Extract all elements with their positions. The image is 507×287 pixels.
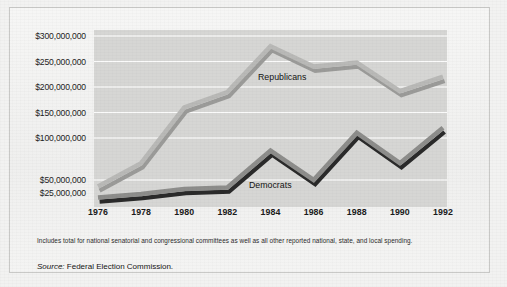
- x-axis-tick-label: 1986: [304, 207, 324, 217]
- x-axis-tick-label: 1980: [174, 207, 194, 217]
- y-axis-tick-label: $200,000,000: [35, 82, 86, 92]
- chart-footnote: Includes total for national senatorial a…: [37, 237, 449, 245]
- y-axis-tick-label: $25,000,000: [40, 188, 86, 198]
- x-axis-tick-label: 1984: [261, 207, 281, 217]
- x-axis-tick-label: 1982: [217, 207, 237, 217]
- x-axis-tick-label: 1990: [390, 207, 410, 217]
- x-axis-tick-label: 1976: [88, 207, 108, 217]
- y-axis-tick-label: $50,000,000: [40, 175, 86, 185]
- x-axis-tick-label: 1992: [433, 207, 453, 217]
- x-axis-tick-label: 1978: [131, 207, 151, 217]
- y-axis-tick-label: $300,000,000: [35, 31, 86, 41]
- series-annotation-republicans: Republicans: [258, 72, 306, 82]
- y-axis-tick-label: $100,000,000: [35, 133, 86, 143]
- x-axis-labels: 197619781980198219841986198819901992: [0, 207, 507, 223]
- chart-source: Source: Federal Election Commission.: [37, 262, 173, 271]
- source-text: Federal Election Commission.: [65, 262, 173, 271]
- x-axis-tick-label: 1988: [347, 207, 367, 217]
- source-label: Source:: [37, 262, 65, 271]
- y-axis-tick-label: $250,000,000: [35, 57, 86, 67]
- figure-page: $300,000,000$250,000,000$200,000,000$150…: [0, 0, 507, 287]
- series-annotation-democrats: Democrats: [249, 180, 292, 190]
- y-axis-tick-label: $150,000,000: [35, 108, 86, 118]
